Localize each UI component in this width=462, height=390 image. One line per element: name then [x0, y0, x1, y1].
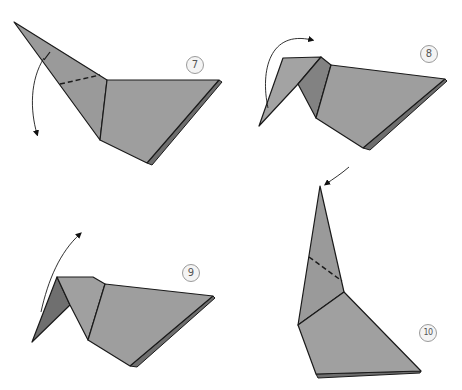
step-8-figure	[259, 38, 447, 150]
step-7-figure	[14, 22, 222, 165]
step-10-figure	[298, 167, 421, 378]
step-9-figure	[32, 234, 215, 367]
step-7-neck	[14, 22, 107, 140]
step-10-number-badge: 10	[419, 324, 437, 342]
step-7-number-badge: 7	[186, 56, 204, 74]
step-10-arrow-icon	[326, 167, 349, 184]
step-8-number-badge: 8	[420, 45, 438, 63]
step-7-curved-arrow-icon	[32, 58, 44, 134]
step-9-number-badge: 9	[182, 264, 200, 282]
origami-diagram	[0, 0, 462, 390]
